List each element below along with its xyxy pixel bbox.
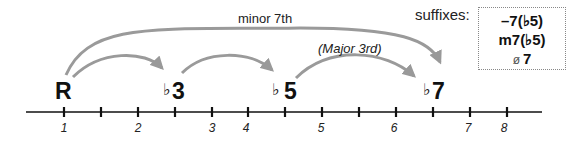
flat5-to-flat7-arc	[296, 55, 414, 78]
flat-icon: ♭	[272, 81, 280, 98]
note-flat-fifth: ♭5	[272, 80, 297, 103]
axis-number-7: 7	[465, 121, 472, 135]
suffix-half-diminished-label: 7	[523, 50, 531, 67]
note-root-label: R	[55, 78, 72, 104]
axis-number-4: 4	[243, 121, 250, 135]
note-flat-seventh: ♭7	[423, 80, 445, 103]
flat-icon: ♭	[163, 81, 171, 98]
minor-seventh-arc	[66, 28, 440, 75]
axis-number-6: 6	[391, 121, 398, 135]
flat-icon: ♭	[423, 81, 431, 98]
axis-number-1: 1	[61, 121, 68, 135]
major-third-label: (Major 3rd)	[318, 41, 382, 56]
suffix-minus7-flat5: –7(♭5)	[479, 11, 565, 30]
note-root: R	[55, 80, 72, 103]
suffix-half-diminished: ø7	[479, 49, 565, 70]
axis-number-5: 5	[318, 121, 325, 135]
suffixes-title: suffixes:	[415, 6, 470, 23]
root-to-flat3-arc	[73, 55, 162, 77]
axis-number-8: 8	[501, 121, 508, 135]
axis-number-3: 3	[209, 121, 216, 135]
note-flat-third-label: 3	[172, 78, 185, 104]
half-diminished-icon: ø	[513, 53, 520, 67]
note-flat-fifth-label: 5	[284, 78, 297, 104]
axis-number-2: 2	[135, 121, 142, 135]
minor-seventh-label: minor 7th	[238, 11, 292, 26]
note-flat-third: ♭3	[163, 80, 185, 103]
note-flat-seventh-label: 7	[432, 78, 445, 104]
flat3-to-flat5-arc	[182, 55, 272, 73]
suffixes-box: –7(♭5) m7(♭5) ø7	[478, 7, 566, 70]
suffix-m7-flat5: m7(♭5)	[479, 30, 565, 49]
